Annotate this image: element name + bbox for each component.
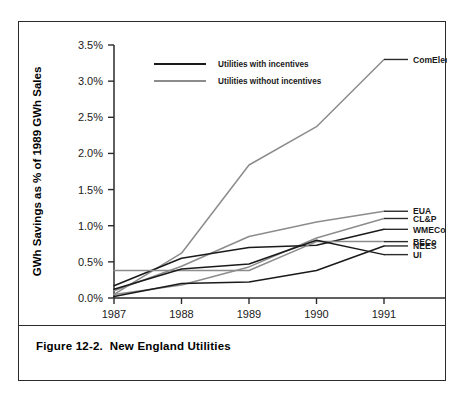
legend-label-1: Utilities without incentives bbox=[218, 77, 322, 86]
x-axis-tick-label: 1989 bbox=[237, 308, 261, 320]
caption-divider bbox=[19, 325, 445, 326]
series-label-cl-p: CL&P bbox=[413, 214, 437, 224]
y-axis-tick-label: 3.5% bbox=[78, 39, 103, 51]
series-line-comelec bbox=[114, 59, 384, 294]
line-chart: 0.0%0.5%1.0%1.5%2.0%2.5%3.0%3.5%19871988… bbox=[19, 22, 447, 325]
legend-label-0: Utilities with incentives bbox=[218, 60, 309, 69]
y-axis-tick-label: 3.0% bbox=[78, 75, 103, 87]
x-axis-tick-label: 1990 bbox=[304, 308, 328, 320]
y-axis-tick-label: 0.0% bbox=[78, 292, 103, 304]
figure-caption: Figure 12-2. New England Utilities bbox=[36, 340, 231, 352]
series-label-nees: NEES bbox=[413, 241, 437, 251]
y-axis-tick-label: 0.5% bbox=[78, 256, 103, 268]
series-label-wmeco: WMECo bbox=[413, 225, 445, 235]
y-axis-tick-label: 2.5% bbox=[78, 111, 103, 123]
series-label-ui: UI bbox=[413, 250, 422, 260]
series-line-cl-p bbox=[114, 218, 384, 294]
y-axis-tick-label: 2.0% bbox=[78, 147, 103, 159]
series-line-eua bbox=[114, 211, 384, 291]
series-label-comelec: ComElec bbox=[413, 55, 447, 65]
figure-frame: 0.0%0.5%1.0%1.5%2.0%2.5%3.0%3.5%19871988… bbox=[18, 21, 446, 381]
chart-area: 0.0%0.5%1.0%1.5%2.0%2.5%3.0%3.5%19871988… bbox=[19, 22, 447, 325]
x-axis-tick-label: 1991 bbox=[372, 308, 396, 320]
x-axis-tick-label: 1988 bbox=[169, 308, 193, 320]
x-axis-tick-label: 1987 bbox=[102, 308, 126, 320]
y-axis-title: GWh Savings as % of 1989 GWh Sales bbox=[31, 67, 43, 277]
y-axis-tick-label: 1.5% bbox=[78, 184, 103, 196]
y-axis-tick-label: 1.0% bbox=[78, 220, 103, 232]
